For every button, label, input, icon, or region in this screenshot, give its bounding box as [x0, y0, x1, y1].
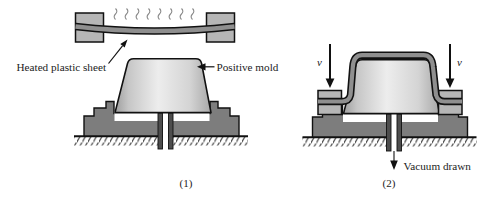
vacuum-hole [163, 114, 169, 150]
positive-mold-shape [344, 60, 440, 114]
vacuum-channel-wall [158, 113, 163, 149]
vacuum-arrowhead-icon [390, 161, 398, 171]
velocity-label-right: v [457, 56, 462, 68]
heated-sheet-label: Heated plastic sheet [17, 61, 107, 73]
positive-mold-shape [115, 59, 211, 113]
velocity-label-left: v [317, 56, 322, 68]
vacuum-channel-wall [169, 113, 174, 149]
velocity-arrowhead-right-icon [446, 79, 455, 89]
positive-mold-label: Positive mold [217, 61, 279, 73]
panel2-caption: (2) [383, 177, 396, 190]
diagram-canvas: Heated plastic sheet Positive mold (1) v [0, 0, 488, 200]
vacuum-channel-wall [387, 114, 392, 151]
panel1-caption: (1) [180, 177, 193, 190]
heat-lines-icon [114, 9, 194, 20]
sheet-leader-line [109, 46, 123, 64]
panel-1: Heated plastic sheet Positive mold (1) [17, 9, 279, 191]
vacuum-drawn-label: Vacuum drawn [404, 160, 472, 172]
panel-2: v v Vacuum drawn (2) [303, 44, 477, 190]
vacuum-hole [391, 115, 397, 152]
velocity-arrowhead-left-icon [326, 79, 335, 89]
vacuum-channel-wall [397, 114, 402, 151]
thermoforming-diagram: Heated plastic sheet Positive mold (1) v [0, 0, 488, 200]
